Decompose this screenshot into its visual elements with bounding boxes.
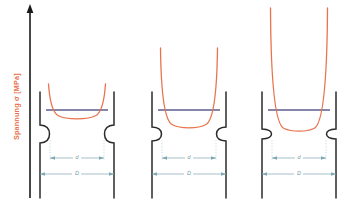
stress-distribution-figure: Spannung σ [MPa] d D bbox=[0, 0, 348, 204]
specimen-2-D-label: D bbox=[187, 170, 191, 176]
specimen-1-D-label: D bbox=[75, 170, 79, 176]
specimen-3-D-label: D bbox=[297, 170, 301, 176]
stress-axis-label: Spannung σ [MPa] bbox=[12, 73, 21, 140]
